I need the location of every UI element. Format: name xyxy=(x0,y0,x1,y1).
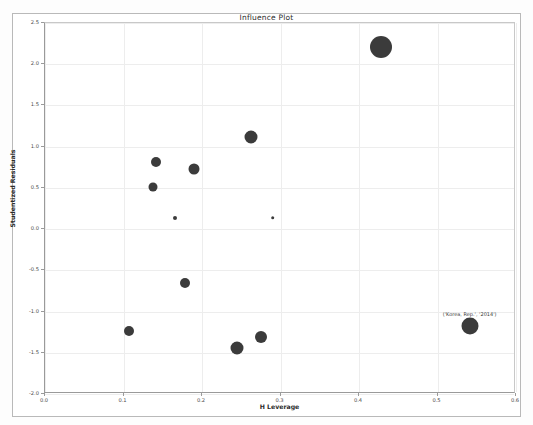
y-tick-label: -1.0 xyxy=(29,308,39,314)
grid xyxy=(45,23,514,392)
y-tick-label: 0.0 xyxy=(31,225,39,231)
y-axis-tick-labels: -2.0-1.5-1.0-0.50.00.51.01.52.02.5 xyxy=(0,22,44,393)
scatter-point xyxy=(231,341,244,354)
x-axis-title: H Leverage xyxy=(44,403,515,410)
gridline-vertical xyxy=(45,23,46,392)
gridline-vertical xyxy=(281,23,282,392)
y-tick-label: -2.0 xyxy=(29,390,39,396)
scatter-point xyxy=(149,183,158,192)
gridline-horizontal xyxy=(45,188,514,189)
gridline-horizontal xyxy=(45,147,514,148)
gridline-vertical xyxy=(438,23,439,392)
x-tick-mark xyxy=(515,393,516,396)
y-tick-label: 1.5 xyxy=(31,101,39,107)
scatter-point xyxy=(255,331,267,343)
y-tick-label: 1.0 xyxy=(31,143,39,149)
gridline-horizontal xyxy=(45,229,514,230)
gridline-horizontal xyxy=(45,270,514,271)
y-tick-label: -0.5 xyxy=(29,266,39,272)
scatter-point xyxy=(271,216,275,220)
scatter-point xyxy=(370,36,392,58)
y-tick-label: -1.5 xyxy=(29,349,39,355)
scatter-point xyxy=(461,318,478,335)
plot-area: ('Korea, Rep.', '2014') xyxy=(44,22,515,393)
y-axis-title: Studentized Residuals xyxy=(9,99,16,279)
scatter-point xyxy=(180,278,190,288)
point-annotation-label: ('Korea, Rep.', '2014') xyxy=(443,311,497,317)
gridline-horizontal xyxy=(45,353,514,354)
scatter-point xyxy=(173,216,177,220)
y-tick-mark xyxy=(41,393,44,394)
gridline-horizontal xyxy=(45,23,514,24)
y-tick-label: 0.5 xyxy=(31,184,39,190)
scanned-page: Influence Plot ('Korea, Rep.', '2014') 0… xyxy=(0,0,533,425)
scatter-point xyxy=(244,130,257,143)
gridline-horizontal xyxy=(45,64,514,65)
y-axis-ticks xyxy=(44,22,45,393)
gridline-vertical xyxy=(359,23,360,392)
gridline-vertical xyxy=(124,23,125,392)
scatter-point xyxy=(151,157,161,167)
gridline-vertical xyxy=(202,23,203,392)
gridline-horizontal xyxy=(45,105,514,106)
y-tick-label: 2.5 xyxy=(31,19,39,25)
scatter-point xyxy=(124,326,134,336)
page-title: Influence Plot xyxy=(0,13,533,22)
y-tick-label: 2.0 xyxy=(31,60,39,66)
scatter-point xyxy=(189,163,200,174)
